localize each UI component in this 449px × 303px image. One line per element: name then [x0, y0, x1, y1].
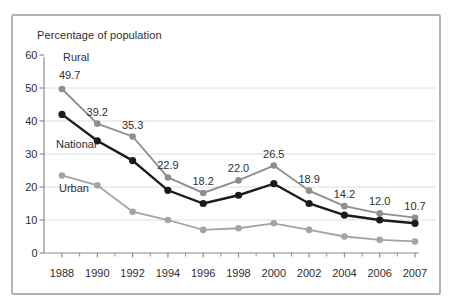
series-label-national: National: [56, 138, 96, 150]
x-tick-label: 1998: [226, 267, 250, 279]
series-label-rural: Rural: [63, 51, 89, 63]
data-point-national: [200, 200, 207, 207]
data-point-urban: [129, 208, 136, 215]
data-point-national: [306, 200, 313, 207]
data-point-urban: [59, 172, 66, 179]
data-point-rural: [94, 120, 101, 127]
value-label: 39.2: [87, 106, 108, 118]
data-point-rural: [376, 210, 383, 217]
value-label: 14.2: [334, 188, 355, 200]
line-chart-canvas: 0102030405060198819901992199419961998200…: [0, 0, 449, 303]
x-tick-label: 2000: [262, 267, 286, 279]
data-point-rural: [271, 162, 278, 169]
data-point-rural: [59, 86, 66, 93]
y-tick-label: 0: [31, 247, 37, 259]
x-tick-label: 2006: [367, 267, 391, 279]
data-point-rural: [129, 133, 136, 140]
y-tick-label: 50: [25, 82, 37, 94]
value-label: 12.0: [369, 195, 390, 207]
y-tick-label: 40: [25, 115, 37, 127]
data-point-rural: [235, 177, 242, 184]
series-label-urban: Urban: [59, 182, 89, 194]
figure-root: { "figure": { "title": "Percentage of po…: [0, 0, 449, 303]
x-tick-label: 1994: [156, 267, 180, 279]
x-tick-label: 1996: [191, 267, 215, 279]
data-point-urban: [412, 238, 419, 245]
x-tick-label: 1990: [85, 267, 109, 279]
data-point-urban: [165, 217, 172, 224]
x-tick-label: 1992: [120, 267, 144, 279]
data-point-urban: [271, 220, 278, 227]
data-point-rural: [341, 203, 348, 210]
value-label: 26.5: [263, 148, 284, 160]
data-point-urban: [341, 233, 348, 240]
data-point-urban: [376, 237, 383, 244]
data-point-rural: [306, 187, 313, 194]
x-tick-label: 2002: [297, 267, 321, 279]
value-label: 22.0: [228, 162, 249, 174]
y-tick-label: 30: [25, 148, 37, 160]
data-point-urban: [235, 225, 242, 232]
data-point-national: [235, 192, 242, 199]
data-point-national: [270, 180, 277, 187]
data-point-national: [164, 187, 171, 194]
value-label: 49.7: [59, 69, 80, 81]
data-point-national: [129, 157, 136, 164]
data-point-rural: [165, 174, 172, 181]
data-point-national: [341, 211, 348, 218]
data-point-rural: [200, 190, 207, 197]
x-tick-label: 1988: [50, 267, 74, 279]
y-tick-label: 60: [25, 49, 37, 61]
data-point-urban: [200, 227, 207, 234]
series-line-urban: [62, 175, 415, 241]
value-label: 35.3: [122, 119, 143, 131]
data-point-urban: [94, 182, 101, 189]
y-tick-label: 20: [25, 181, 37, 193]
x-tick-label: 2004: [332, 267, 356, 279]
value-label: 22.9: [157, 159, 178, 171]
value-label: 10.7: [404, 200, 425, 212]
data-point-national: [411, 220, 418, 227]
data-point-urban: [306, 227, 313, 234]
data-point-national: [58, 111, 65, 118]
y-tick-label: 10: [25, 214, 37, 226]
value-label: 18.2: [192, 175, 213, 187]
x-tick-label: 2007: [403, 267, 427, 279]
data-point-national: [376, 216, 383, 223]
value-label: 18.9: [298, 173, 319, 185]
